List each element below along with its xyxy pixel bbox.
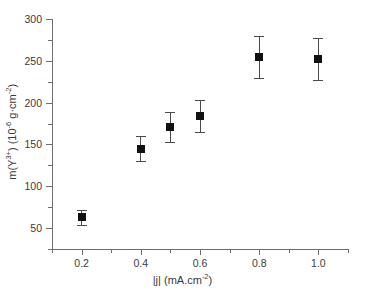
error-bar-cap-top — [77, 210, 87, 211]
x-tick-minor — [170, 249, 171, 253]
error-bar-cap-bottom — [195, 132, 205, 133]
y-tick-minor — [48, 124, 52, 125]
y-tick-minor — [48, 40, 52, 41]
x-tick-label: 0.8 — [252, 257, 267, 269]
y-tick-mark: 300 — [46, 19, 52, 20]
x-tick-minor — [111, 249, 112, 253]
y-tick-label: 50 — [30, 222, 42, 234]
error-bar-cap-top — [313, 38, 323, 39]
error-bar-cap-top — [165, 112, 175, 113]
x-tick-minor — [230, 249, 231, 253]
data-marker — [166, 123, 174, 131]
y-tick-mark: 50 — [46, 228, 52, 229]
x-tick-label: 0.6 — [193, 257, 208, 269]
data-marker — [196, 112, 204, 120]
y-axis-title: m(Y3+) (10-6 g·cm-2) — [4, 17, 18, 247]
x-tick-mark — [259, 249, 260, 255]
error-bar-cap-bottom — [165, 142, 175, 143]
x-tick-label: 0.2 — [74, 257, 89, 269]
data-marker — [137, 145, 145, 153]
y-tick-minor — [48, 165, 52, 166]
x-tick-minor — [348, 249, 349, 253]
y-tick-mark: 100 — [46, 186, 52, 187]
plot-area: 50100150200250300 0.20.40.60.81.0 — [52, 19, 348, 249]
y-tick-mark: 250 — [46, 61, 52, 62]
y-tick-label: 300 — [24, 13, 42, 25]
error-bar-cap-bottom — [77, 225, 87, 226]
x-tick-mark — [318, 249, 319, 255]
y-tick-minor — [48, 207, 52, 208]
x-tick-label: 1.0 — [311, 257, 326, 269]
error-bar-cap-top — [136, 136, 146, 137]
x-tick-mark — [141, 249, 142, 255]
data-marker — [314, 55, 322, 63]
y-tick-label: 100 — [24, 180, 42, 192]
data-marker — [78, 213, 86, 221]
y-tick-minor — [48, 82, 52, 83]
x-axis-title: |j| (mA.cm-2) — [0, 272, 365, 286]
error-bar-cap-top — [195, 100, 205, 101]
chart-figure: 50100150200250300 0.20.40.60.81.0 |j| (m… — [0, 0, 365, 291]
data-marker — [255, 53, 263, 61]
x-tick-minor — [289, 249, 290, 253]
x-tick-minor — [52, 249, 53, 253]
x-tick-mark — [82, 249, 83, 255]
error-bar-cap-bottom — [313, 80, 323, 81]
x-tick-mark — [200, 249, 201, 255]
y-tick-label: 200 — [24, 97, 42, 109]
error-bar-cap-bottom — [254, 78, 264, 79]
y-tick-label: 250 — [24, 55, 42, 67]
x-tick-label: 0.4 — [133, 257, 148, 269]
error-bar-cap-bottom — [136, 161, 146, 162]
error-bar-cap-top — [254, 36, 264, 37]
y-tick-mark: 200 — [46, 103, 52, 104]
y-tick-label: 150 — [24, 138, 42, 150]
y-tick-mark: 150 — [46, 144, 52, 145]
